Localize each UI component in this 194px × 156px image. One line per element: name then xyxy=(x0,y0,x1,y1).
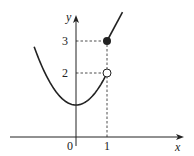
guide-lines xyxy=(76,41,107,137)
x-tick-label: 0 xyxy=(67,139,73,153)
series xyxy=(34,12,122,105)
x-axis-label: x xyxy=(174,140,181,154)
parabola-curve xyxy=(34,47,107,105)
line-segment xyxy=(107,12,123,41)
tick-labels: 0123 xyxy=(62,34,110,153)
y-axis-label: y xyxy=(65,10,72,24)
x-tick-label: 1 xyxy=(104,139,110,153)
closed-circle-marker xyxy=(103,37,111,45)
chart: x y 0123 xyxy=(0,0,194,156)
y-tick-label: 3 xyxy=(62,34,68,48)
open-circle-marker xyxy=(103,69,111,77)
y-tick-label: 2 xyxy=(62,66,68,80)
